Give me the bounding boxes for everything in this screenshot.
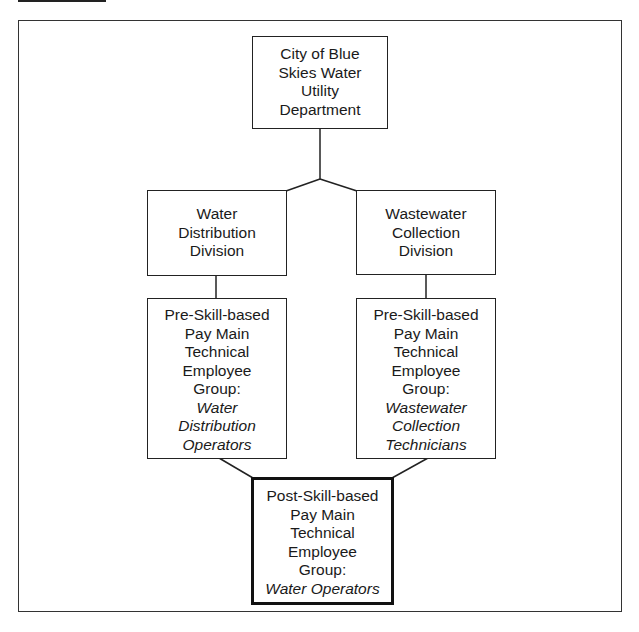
node-line: Collection xyxy=(392,224,460,243)
node-line: Employee xyxy=(288,543,357,562)
node-wastewater-group: Pre-Skill-based Pay Main Technical Emplo… xyxy=(356,298,496,459)
node-line: Group: xyxy=(193,380,240,399)
node-line-italic: Technicians xyxy=(385,436,466,455)
node-line: Post-Skill-based xyxy=(267,487,379,506)
node-line: Department xyxy=(280,101,361,120)
node-merged-group: Post-Skill-based Pay Main Technical Empl… xyxy=(251,477,394,605)
node-line-italic: Water xyxy=(196,399,237,418)
node-line: Pre-Skill-based xyxy=(164,306,269,325)
connector-water-group-merged xyxy=(219,458,253,478)
connector-wastewater-group-merged xyxy=(392,458,428,478)
connector-root-water xyxy=(286,179,320,191)
node-line: Employee xyxy=(392,362,461,381)
node-line-italic: Water Operators xyxy=(265,580,379,599)
node-line: Group: xyxy=(299,561,346,580)
node-water-division: Water Distribution Division xyxy=(147,190,287,276)
node-line: Group: xyxy=(402,380,449,399)
node-line: City of Blue xyxy=(280,45,359,64)
node-line: Pay Main xyxy=(394,325,459,344)
node-line: Distribution xyxy=(178,224,256,243)
node-water-group: Pre-Skill-based Pay Main Technical Emplo… xyxy=(147,298,287,459)
node-wastewater-division: Wastewater Collection Division xyxy=(356,190,496,275)
node-line-italic: Distribution xyxy=(178,417,256,436)
node-line: Pay Main xyxy=(185,325,250,344)
node-line: Technical xyxy=(290,524,355,543)
node-line: Technical xyxy=(185,343,250,362)
node-line: Division xyxy=(190,242,244,261)
node-line-italic: Wastewater xyxy=(385,399,467,418)
node-line: Technical xyxy=(394,343,459,362)
node-line: Division xyxy=(399,242,453,261)
node-line: Utility xyxy=(301,82,339,101)
node-line: Employee xyxy=(183,362,252,381)
node-line: Water xyxy=(197,205,238,224)
node-line-italic: Collection xyxy=(392,417,460,436)
node-line: Pre-Skill-based xyxy=(373,306,478,325)
node-line: Pay Main xyxy=(290,506,355,525)
node-line: Skies Water xyxy=(279,64,362,83)
node-line-italic: Operators xyxy=(183,436,252,455)
node-root: City of Blue Skies Water Utility Departm… xyxy=(252,36,388,129)
node-line: Wastewater xyxy=(385,205,466,224)
connector-root-wastewater xyxy=(320,179,357,191)
